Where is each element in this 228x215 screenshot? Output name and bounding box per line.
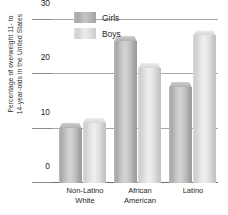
bar-body xyxy=(169,87,192,183)
tick-stub-20 xyxy=(32,73,52,74)
bar-girls-non-latino-white xyxy=(59,123,82,183)
y-axis-title-line-2: 14-year-olds in the United States xyxy=(16,14,25,114)
x-axis-label-latino: Latino xyxy=(158,186,228,196)
bar-body xyxy=(83,123,106,183)
y-axis-title-line-1: Percentage of overweight 11- to xyxy=(7,15,16,112)
legend-label-boys: Boys xyxy=(102,29,121,39)
girls-swatch-icon xyxy=(74,12,96,23)
bar-boys-latino xyxy=(193,30,216,183)
plot-area: 30 20 10 0 xyxy=(52,14,218,183)
legend-item-boys: Boys xyxy=(74,28,121,39)
boys-swatch-icon xyxy=(74,28,96,39)
legend-item-girls: Girls xyxy=(74,12,121,23)
bar-boys-non-latino-white xyxy=(83,118,106,183)
bar-boys-african-american xyxy=(138,63,161,183)
chart-legend: Girls Boys xyxy=(74,12,121,39)
bar-body xyxy=(114,41,137,183)
y-tick-label-10: 10 xyxy=(28,107,50,118)
bar-girls-latino xyxy=(169,82,192,183)
y-tick-label-20: 20 xyxy=(28,52,50,63)
y-tick-label-30: 30 xyxy=(28,0,50,9)
tick-stub-30 xyxy=(32,19,52,20)
bar-body xyxy=(59,128,82,183)
y-axis-title: Percentage of overweight 11- to 14-year-… xyxy=(4,0,28,152)
bar-body xyxy=(138,68,161,183)
x-label-line-1: Latino xyxy=(158,186,228,196)
y-tick-label-0: 0 xyxy=(28,161,50,172)
x-label-line-2: American xyxy=(103,196,177,206)
bar-chart: Percentage of overweight 11- to 14-year-… xyxy=(0,0,228,215)
bar-body xyxy=(193,35,216,183)
tick-stub-10 xyxy=(32,128,52,129)
legend-label-girls: Girls xyxy=(102,13,119,23)
tick-stub-0 xyxy=(32,182,52,183)
bar-girls-african-american xyxy=(114,36,137,183)
